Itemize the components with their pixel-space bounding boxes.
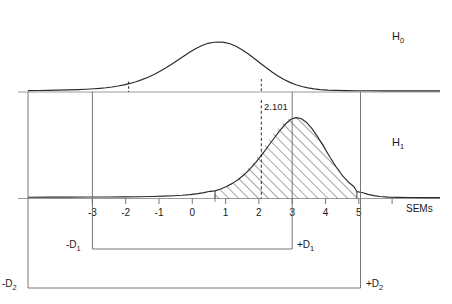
axis-tick-label: 0 xyxy=(190,207,196,218)
axis-title-sems: SEMs xyxy=(406,203,433,214)
statistical-power-diagram: H0 2.101 H1 -3 -2 -1 0 1 2 xyxy=(0,0,452,304)
axis-tick-label: 5 xyxy=(356,207,362,218)
axis-tick-labels: -3 -2 -1 0 1 2 3 4 5 xyxy=(88,207,362,218)
axis-tick-label: 1 xyxy=(223,207,229,218)
h1-curve-label: H1 xyxy=(392,136,404,151)
d2-left-label: -D2 xyxy=(2,278,17,292)
h0-curve-label: H0 xyxy=(392,30,404,45)
h0-curve xyxy=(28,42,440,91)
axis-ticks xyxy=(92,199,392,205)
axis-tick-label: -2 xyxy=(121,207,130,218)
axis-tick-label: 2 xyxy=(256,207,262,218)
d2-right-label: +D2 xyxy=(366,278,383,292)
d1-right-label: +D1 xyxy=(297,239,314,253)
axis-tick-label: -1 xyxy=(155,207,164,218)
d1-left-label: -D1 xyxy=(66,239,81,253)
critical-value-label: 2.101 xyxy=(264,101,288,112)
axis-tick-label: 4 xyxy=(323,207,329,218)
